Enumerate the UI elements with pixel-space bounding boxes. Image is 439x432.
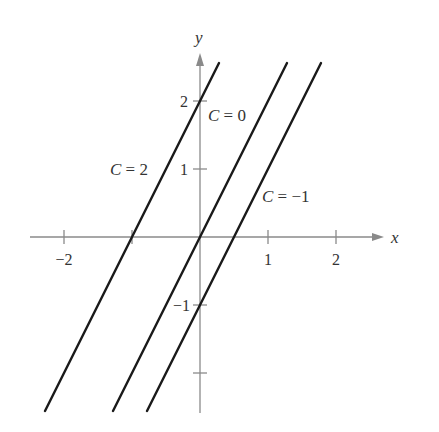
y-axis-label: y — [193, 28, 203, 47]
x-axis-label: x — [390, 228, 399, 247]
x-tick-label: −2 — [55, 251, 72, 268]
label-c-0: C = 0 — [208, 106, 246, 125]
chart: x y −2 1 2 2 1 −1 C = 2 C = 0 C = −1 — [0, 0, 439, 432]
y-axis-arrow-icon — [196, 53, 204, 66]
label-c-neg1: C = −1 — [262, 187, 310, 206]
x-tick-label: 1 — [264, 251, 272, 268]
y-tick-label: 2 — [180, 93, 188, 110]
y-tick-label: 1 — [180, 161, 188, 178]
x-tick-label: 2 — [332, 251, 340, 268]
x-axis-arrow-icon — [372, 233, 384, 241]
y-tick-label: −1 — [173, 297, 190, 314]
axes — [30, 60, 378, 413]
label-c-2: C = 2 — [110, 160, 148, 179]
